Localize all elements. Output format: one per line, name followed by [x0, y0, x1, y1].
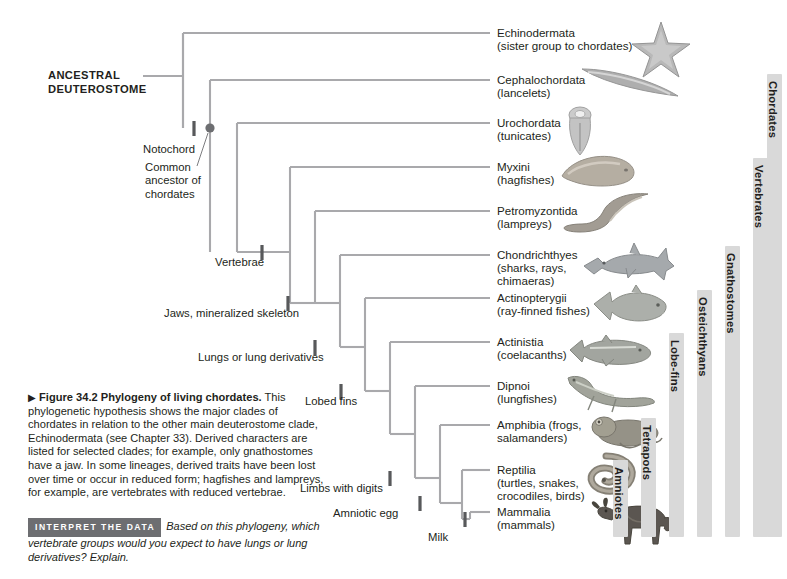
trait-label-notochord: Notochord	[143, 143, 195, 156]
common-ancestor-node-dot	[205, 123, 214, 132]
taxon-name: Actinistia	[497, 335, 567, 348]
caption-title: Phylogeny of living chordates.	[101, 391, 262, 403]
taxon-common: (ray-finned fishes)	[497, 304, 590, 317]
taxon-name: Dipnoi	[497, 379, 557, 392]
trait-label-milk: Milk	[428, 531, 448, 544]
clade-bar-label: Gnathostomes	[725, 246, 737, 334]
clade-bar-lobe-fins: Lobe-fins	[669, 333, 684, 537]
taxon-name: Echinodermata	[497, 26, 632, 39]
taxon-echinodermata: Echinodermata (sister group to chordates…	[497, 26, 632, 52]
taxon-name: Amphibia (frogs,	[497, 418, 581, 431]
clade-bar-label: Lobe-fins	[669, 333, 681, 392]
clade-bar-amniotes: Amniotes	[613, 460, 628, 537]
lungfish-icon	[558, 370, 658, 414]
taxon-common: (coelacanths)	[497, 348, 567, 361]
trait-label-vertebrae: Vertebrae	[215, 256, 264, 269]
clade-bar-label: Amniotes	[613, 460, 625, 520]
taxon-common: (lungfishes)	[497, 392, 557, 405]
taxon-name: Mammalia	[497, 505, 555, 518]
taxon-urochordata: Urochordata (tunicates)	[497, 116, 561, 142]
wildebeest-icon	[590, 492, 676, 550]
taxon-mammalia: Mammalia (mammals)	[497, 505, 555, 531]
ray-finned-fish-icon	[590, 284, 670, 324]
taxon-common: (lancelets)	[497, 86, 585, 99]
taxon-name: Urochordata	[497, 116, 561, 129]
ancestral-deuterostome-label: ANCESTRAL DEUTEROSTOME	[48, 69, 146, 96]
taxon-myxini: Myxini (hagfishes)	[497, 160, 554, 186]
taxon-amphibia: Amphibia (frogs, salamanders)	[497, 418, 581, 444]
figure-caption: ▶ Figure 34.2 Phylogeny of living chorda…	[28, 391, 324, 500]
lancelet-icon	[578, 63, 682, 101]
root-label-line-1: ANCESTRAL	[48, 69, 146, 83]
taxon-common: (sharks, rays,	[497, 261, 578, 274]
taxon-dipnoi: Dipnoi (lungfishes)	[497, 379, 557, 405]
lamprey-icon	[560, 190, 652, 238]
clade-bar-label: Osteichthyans	[697, 290, 709, 377]
clade-bar-label: Chordates	[767, 74, 779, 138]
root-label-line-2: DEUTEROSTOME	[48, 83, 146, 97]
taxon-name: Cephalochordata	[497, 73, 585, 86]
taxon-actinopterygii: Actinopterygii (ray-finned fishes)	[497, 291, 590, 317]
taxon-common: (sister group to chordates)	[497, 39, 632, 52]
taxon-common: (hagfishes)	[497, 173, 554, 186]
shark-icon	[578, 240, 678, 284]
coelacanth-icon	[566, 332, 658, 368]
taxon-name: Chondrichthyes	[497, 248, 578, 261]
taxon-common-2: chimaeras)	[497, 274, 578, 287]
figure-canvas: ANCESTRAL DEUTEROSTOME Notochord Common …	[0, 0, 787, 579]
caption-arrow-icon: ▶	[28, 392, 36, 403]
clade-bar-chordates: Chordates	[767, 74, 782, 537]
taxon-common: salamanders)	[497, 431, 581, 444]
caption-figure-number: Figure 34.2	[39, 391, 98, 403]
caption-body: This phylogenetic hypothesis shows the m…	[28, 391, 323, 498]
hagfish-icon	[556, 148, 642, 190]
clade-bar-label: Vertebrates	[753, 158, 765, 228]
taxon-cephalochordata: Cephalochordata (lancelets)	[497, 73, 585, 99]
clade-bar-osteichthyans: Osteichthyans	[697, 290, 712, 537]
interpret-the-data-badge: INTERPRET THE DATA	[28, 518, 161, 537]
clade-bar-vertebrates: Vertebrates	[753, 158, 768, 537]
taxon-name: Actinopterygii	[497, 291, 590, 304]
taxon-chondrichthyes: Chondrichthyes (sharks, rays, chimaeras)	[497, 248, 578, 288]
trait-label-jaws: Jaws, mineralized skeleton	[164, 307, 299, 320]
taxon-common: (tunicates)	[497, 129, 561, 142]
taxon-common: (mammals)	[497, 518, 555, 531]
clade-bar-tetrapods: Tetrapods	[641, 418, 656, 537]
common-ancestor-annotation: Common ancestor of chordates	[145, 161, 215, 201]
taxon-actinistia: Actinistia (coelacanths)	[497, 335, 567, 361]
interpret-the-data-block: INTERPRET THE DATABased on this phylogen…	[28, 518, 358, 564]
clade-bar-gnathostomes: Gnathostomes	[725, 246, 740, 537]
taxon-name: Myxini	[497, 160, 554, 173]
trait-label-lungs: Lungs or lung derivatives	[198, 351, 324, 364]
clade-bar-label: Tetrapods	[641, 418, 653, 480]
